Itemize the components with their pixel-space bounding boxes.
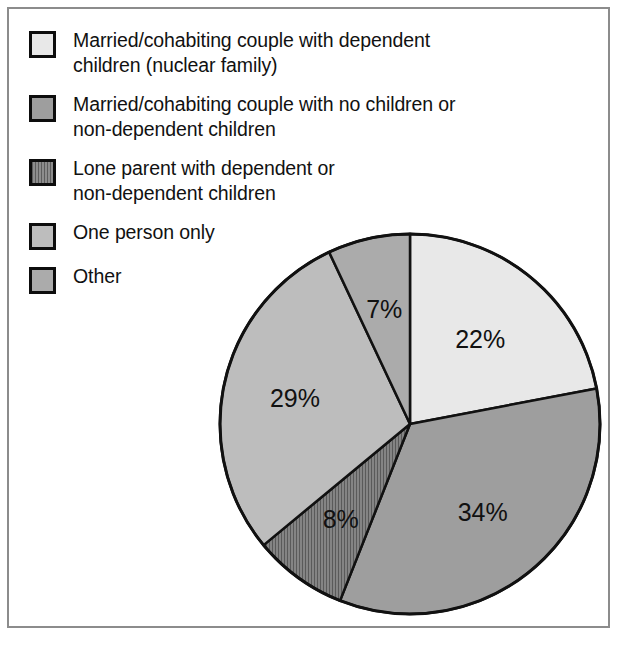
legend-item-label: One person only [73, 220, 215, 245]
slice-label-no-children: 34% [458, 498, 508, 526]
slice-label-one-person: 29% [270, 384, 320, 412]
slice-label-nuclear: 22% [455, 325, 505, 353]
no-children-swatch-icon [29, 95, 56, 122]
figure-container: Married/cohabiting couple with dependent… [0, 0, 624, 647]
one-person-swatch-icon [29, 223, 56, 250]
legend-item-label: Married/cohabiting couple with dependent… [73, 28, 430, 78]
slice-label-other: 7% [366, 295, 402, 323]
pie-chart-svg: 22% 34% 8% 29% 7% [212, 226, 608, 622]
legend-item-label: Married/cohabiting couple with no childr… [73, 92, 455, 142]
legend-item-nuclear-family[interactable]: Married/cohabiting couple with dependent… [29, 28, 499, 78]
legend-item-lone-parent[interactable]: Lone parent with dependent or non-depend… [29, 156, 499, 206]
pie-slices [220, 234, 600, 614]
nuclear-swatch-icon [29, 31, 56, 58]
slice-label-lone-parent: 8% [323, 505, 359, 533]
legend-item-couple-no-children[interactable]: Married/cohabiting couple with no childr… [29, 92, 499, 142]
legend-item-label: Lone parent with dependent or non-depend… [73, 156, 335, 206]
other-swatch-icon [29, 267, 56, 294]
lone-parent-swatch-icon [29, 159, 56, 186]
legend-item-label: Other [73, 264, 121, 289]
pie-chart: 22% 34% 8% 29% 7% [212, 226, 608, 622]
